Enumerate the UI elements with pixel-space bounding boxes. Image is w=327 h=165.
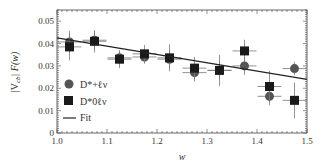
y-tick-label: 0.03 (38, 61, 54, 71)
series-line (57, 38, 307, 79)
legend-circle-marker (65, 80, 74, 89)
chart: 1.01.11.21.31.41.500.010.020.030.040.05 … (0, 0, 327, 165)
data-point-circle (290, 64, 299, 73)
y-tick-label: 0.01 (38, 106, 54, 116)
x-tick-label: 1.4 (251, 136, 263, 146)
data-point-square (115, 55, 124, 64)
x-tick-label: 1.2 (151, 136, 162, 146)
legend-label-dzero: D*0ℓν (80, 96, 107, 107)
legend-label-fit: Fit (80, 112, 91, 123)
y-tick-label: 0.04 (38, 39, 54, 49)
y-axis-label: |Vcb| F(w) (9, 51, 22, 92)
axis-ticks: 1.01.11.21.31.41.500.010.020.030.040.05 (38, 10, 313, 146)
data-point-square (140, 49, 149, 58)
x-tick-label: 1.1 (101, 136, 112, 146)
data-point-square (215, 66, 224, 75)
data-point-square (240, 46, 249, 55)
data-point-square (65, 42, 74, 51)
data-point-square (265, 82, 274, 91)
x-tick-label: 1.3 (201, 136, 213, 146)
x-axis-label: w (179, 151, 186, 162)
y-tick-label: 0.05 (38, 16, 54, 26)
legend-square-marker (64, 96, 73, 105)
legend: D*+ℓν D*0ℓν Fit (63, 79, 108, 123)
data-point-square (190, 64, 199, 73)
legend-label-dplus: D*+ℓν (80, 79, 108, 90)
y-tick-label: 0.02 (38, 83, 54, 93)
x-tick-label: 1.5 (301, 136, 313, 146)
fit-line (57, 38, 307, 79)
data-point-square (290, 96, 299, 105)
data-point-square (165, 53, 174, 62)
y-tick-label: 0 (50, 128, 55, 138)
